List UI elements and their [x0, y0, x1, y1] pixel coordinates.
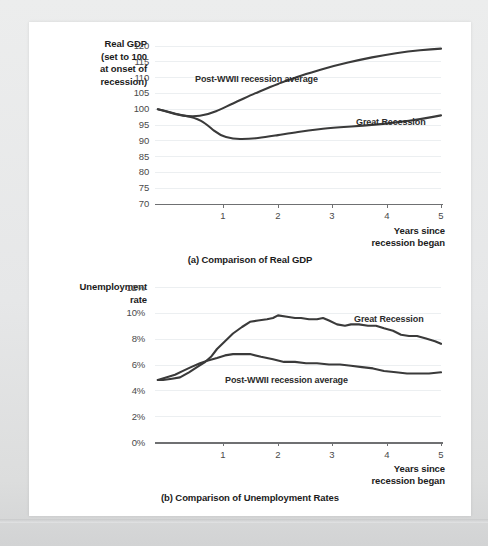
gdp-xtickmark-1 [223, 204, 224, 208]
unemp-x-axis-title-line-2: recession began [329, 475, 445, 487]
unemp-xtick-1: 1 [215, 449, 231, 460]
gdp-xtick-3: 3 [324, 210, 340, 221]
unemp-x-axis-line [155, 442, 443, 444]
gdp-xtick-4: 4 [379, 210, 395, 221]
gdp-label-great-recession: Great Recession [356, 117, 426, 127]
gdp-x-axis-title-line-1: Years since [329, 225, 445, 237]
unemp-label-postwwii: Post-WWII recession average [225, 375, 348, 385]
unemp-ytick-12: 12% [113, 282, 145, 293]
unemp-ytick-2: 2% [113, 411, 145, 422]
unemp-xtickmark-2 [278, 442, 279, 446]
unemp-xtick-3: 3 [324, 449, 340, 460]
unemp-ytick-0: 0% [113, 437, 145, 448]
unemp-ytick-8: 8% [113, 333, 145, 344]
gdp-label-postwwii: Post-WWII recession average [195, 74, 318, 84]
unemp-curve-great-recession [158, 315, 441, 380]
gdp-ytick-70: 70 [117, 198, 149, 209]
unemp-ytick-4: 4% [113, 385, 145, 396]
gdp-xtick-5: 5 [433, 210, 449, 221]
gdp-ytick-95: 95 [117, 119, 149, 130]
unemp-xtickmark-3 [332, 442, 333, 446]
gdp-ytick-80: 80 [117, 166, 149, 177]
gdp-xtick-2: 2 [270, 210, 286, 221]
gdp-xtick-1: 1 [215, 210, 231, 221]
gdp-x-axis-title-line-2: recession began [329, 237, 445, 249]
unemp-xtick-2: 2 [270, 449, 286, 460]
unemp-xtick-5: 5 [433, 449, 449, 460]
gdp-xtickmark-5 [441, 204, 442, 208]
unemp-xtickmark-4 [387, 442, 388, 446]
gdp-ytick-75: 75 [117, 182, 149, 193]
unemp-figure-caption: (b) Comparison of Unemployment Rates [29, 492, 471, 503]
gdp-figure-caption: (a) Comparison of Real GDP [29, 254, 471, 265]
gdp-x-axis-title: Years since recession began [329, 225, 445, 250]
gdp-xtickmark-3 [332, 204, 333, 208]
unemp-xtickmark-5 [441, 442, 442, 446]
page-sheet: Real GDP (set to 100 at onset of recessi… [29, 22, 471, 516]
unemp-x-axis-title-line-1: Years since [329, 463, 445, 475]
unemp-label-great-recession: Great Recession [354, 314, 424, 324]
gdp-ytick-100: 100 [117, 103, 149, 114]
gdp-ytick-85: 85 [117, 151, 149, 162]
unemp-ytick-6: 6% [113, 359, 145, 370]
gdp-ytick-105: 105 [117, 87, 149, 98]
gdp-x-axis-line [155, 204, 443, 206]
unemp-ytick-10: 10% [113, 307, 145, 318]
gdp-xtickmark-2 [278, 204, 279, 208]
unemp-y-axis-title-line-2: rate [43, 294, 147, 307]
unemp-x-axis-title: Years since recession began [329, 463, 445, 488]
gdp-ytick-115: 115 [117, 56, 149, 67]
unemp-xtickmark-1 [223, 442, 224, 446]
gdp-xtickmark-4 [387, 204, 388, 208]
unemp-xtick-4: 4 [379, 449, 395, 460]
gdp-ytick-110: 110 [117, 72, 149, 83]
gdp-ytick-90: 90 [117, 135, 149, 146]
gdp-ytick-120: 120 [117, 40, 149, 51]
unemp-plot-lines [155, 287, 443, 442]
